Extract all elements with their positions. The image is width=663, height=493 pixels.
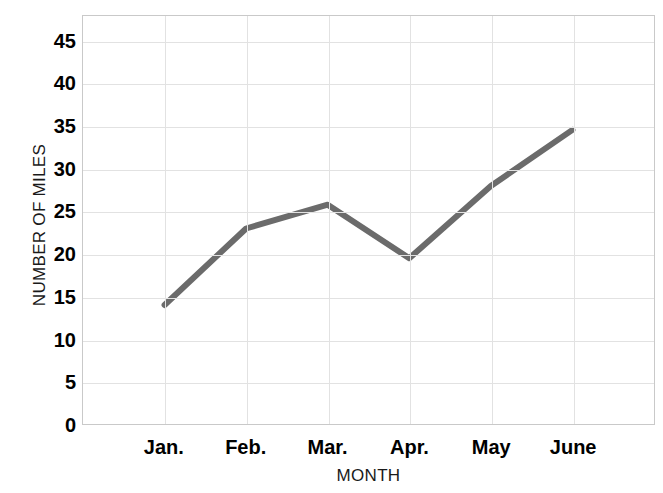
gridline-vertical <box>247 16 248 424</box>
gridline-horizontal <box>83 170 654 171</box>
gridline-horizontal <box>83 42 654 43</box>
y-tick-label: 10 <box>16 330 76 350</box>
y-tick-label: 0 <box>16 415 76 435</box>
gridline-horizontal <box>83 127 654 128</box>
gridline-horizontal <box>83 298 654 299</box>
gridline-vertical <box>165 16 166 424</box>
gridline-horizontal <box>83 212 654 213</box>
y-axis-title: NUMBER OF MILES <box>30 125 50 325</box>
gridline-vertical <box>574 16 575 424</box>
gridline-horizontal <box>83 255 654 256</box>
plot-area <box>82 15 655 425</box>
x-tick-label: June <box>518 436 628 459</box>
x-axis-title: MONTH <box>82 466 655 486</box>
y-tick-label: 45 <box>16 31 76 51</box>
gridline-vertical <box>410 16 411 424</box>
line-chart-figure: 051015202530354045 NUMBER OF MILES MONTH… <box>0 0 663 493</box>
gridline-vertical <box>329 16 330 424</box>
gridline-horizontal <box>83 341 654 342</box>
y-tick-label: 40 <box>16 73 76 93</box>
series-polyline <box>165 130 573 305</box>
gridline-vertical <box>492 16 493 424</box>
y-tick-label: 5 <box>16 372 76 392</box>
gridline-horizontal <box>83 84 654 85</box>
gridline-horizontal <box>83 383 654 384</box>
series-line <box>83 16 654 424</box>
